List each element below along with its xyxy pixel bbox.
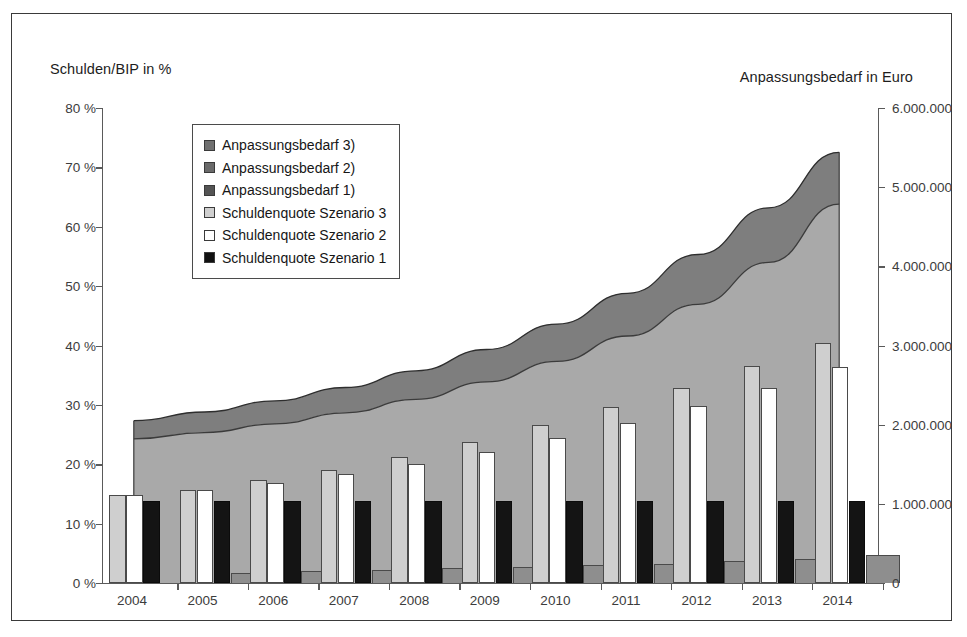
chart-page: Schulden/BIP in % Anpassungsbedarf in Eu… xyxy=(0,0,967,637)
legend-item: Anpassungsbedarf 3) xyxy=(204,134,386,157)
x-tick-label: 2011 xyxy=(611,593,640,608)
bar-szenario2 xyxy=(690,406,707,584)
left-tick-mark xyxy=(96,405,103,406)
right-tick-mark xyxy=(878,346,885,347)
left-tick-label: 60 % xyxy=(65,219,96,234)
x-tick-label: 2007 xyxy=(329,593,359,608)
left-tick-label: 80 % xyxy=(65,101,96,116)
legend-label: Schuldenquote Szenario 3 xyxy=(222,205,386,221)
left-tick-label: 10 % xyxy=(65,516,96,531)
left-tick-mark xyxy=(96,108,103,109)
right-tick-label: 4.000.000 xyxy=(892,259,952,274)
bar-szenario2 xyxy=(761,388,778,583)
bar-szenario3 xyxy=(109,495,126,583)
bar-szenario3 xyxy=(744,366,761,583)
x-tick-label: 2012 xyxy=(681,593,711,608)
bar-szenario1 xyxy=(849,501,866,584)
x-tick-mark xyxy=(318,583,319,590)
legend-item: Anpassungsbedarf 2) xyxy=(204,157,386,180)
x-tick-mark xyxy=(812,583,813,590)
left-tick-label: 20 % xyxy=(65,457,96,472)
left-tick-label: 0 % xyxy=(73,576,96,591)
left-tick-label: 40 % xyxy=(65,338,96,353)
right-tick-label: 6.000.000 xyxy=(892,101,952,116)
legend-swatch-icon xyxy=(204,207,215,218)
bar-szenario2 xyxy=(549,438,566,583)
bar-szenario1 xyxy=(637,501,654,584)
left-tick-label: 50 % xyxy=(65,279,96,294)
bar-szenario1 xyxy=(355,501,372,584)
left-tick-mark xyxy=(96,464,103,465)
right-tick-mark xyxy=(878,187,885,188)
legend-item: Schuldenquote Szenario 1 xyxy=(204,247,386,270)
x-tick-mark xyxy=(883,583,884,590)
legend-swatch-icon xyxy=(204,185,215,196)
left-tick-mark xyxy=(96,346,103,347)
legend-item: Schuldenquote Szenario 3 xyxy=(204,202,386,225)
right-tick-mark xyxy=(878,108,885,109)
left-tick-mark xyxy=(96,286,103,287)
legend-item: Anpassungsbedarf 1) xyxy=(204,179,386,202)
bar-szenario3 xyxy=(673,388,690,583)
x-tick-label: 2013 xyxy=(752,593,782,608)
x-tick-label: 2004 xyxy=(117,593,147,608)
x-tick-mark xyxy=(671,583,672,590)
x-tick-mark xyxy=(742,583,743,590)
x-tick-mark xyxy=(530,583,531,590)
bar-szenario1 xyxy=(496,501,513,584)
bar-szenario2 xyxy=(338,474,355,583)
chart-legend: Anpassungsbedarf 3)Anpassungsbedarf 2)An… xyxy=(192,124,400,279)
bar-szenario2 xyxy=(267,483,284,583)
bar-szenario1 xyxy=(425,501,442,584)
right-tick-label: 3.000.000 xyxy=(892,338,952,353)
x-tick-mark xyxy=(248,583,249,590)
bar-szenario3 xyxy=(462,442,479,583)
x-tick-label: 2009 xyxy=(470,593,500,608)
bar-szenario3 xyxy=(321,470,338,583)
chart-frame: Schulden/BIP in % Anpassungsbedarf in Eu… xyxy=(11,13,952,621)
x-tick-label: 2005 xyxy=(188,593,218,608)
legend-label: Anpassungsbedarf 2) xyxy=(222,160,355,176)
x-tick-label: 2014 xyxy=(823,593,853,608)
legend-swatch-icon xyxy=(204,140,215,151)
bar-szenario2 xyxy=(408,464,425,583)
bar-szenario2 xyxy=(620,423,637,583)
right-tick-label: 2.000.000 xyxy=(892,417,952,432)
right-axis-title: Anpassungsbedarf in Euro xyxy=(740,69,913,85)
legend-swatch-icon xyxy=(204,162,215,173)
right-tick-label: 0 xyxy=(892,576,900,591)
right-tick-mark xyxy=(878,425,885,426)
bar-szenario2 xyxy=(126,495,143,583)
legend-label: Schuldenquote Szenario 1 xyxy=(222,250,386,266)
x-tick-label: 2008 xyxy=(399,593,429,608)
right-tick-mark xyxy=(878,504,885,505)
legend-label: Anpassungsbedarf 3) xyxy=(222,137,355,153)
bar-szenario3 xyxy=(815,343,832,584)
bar-szenario3 xyxy=(250,480,267,583)
x-axis-line xyxy=(102,583,880,584)
left-tick-mark xyxy=(96,524,103,525)
x-tick-mark xyxy=(177,583,178,590)
left-tick-label: 70 % xyxy=(65,160,96,175)
legend-swatch-icon xyxy=(204,252,215,263)
x-tick-label: 2010 xyxy=(540,593,570,608)
left-tick-mark xyxy=(96,167,103,168)
left-tick-mark xyxy=(96,583,103,584)
bar-szenario1 xyxy=(284,501,301,584)
legend-label: Anpassungsbedarf 1) xyxy=(222,182,355,198)
x-tick-mark xyxy=(389,583,390,590)
bar-szenario3 xyxy=(180,490,197,583)
bar-szenario2 xyxy=(197,490,214,583)
x-tick-mark xyxy=(459,583,460,590)
left-tick-mark xyxy=(96,227,103,228)
bar-szenario2 xyxy=(479,452,496,583)
legend-swatch-icon xyxy=(204,230,215,241)
bar-szenario1 xyxy=(143,501,160,584)
bar-szenario1 xyxy=(214,501,231,584)
bar-szenario3 xyxy=(603,407,620,583)
left-axis-title: Schulden/BIP in % xyxy=(50,61,172,77)
left-tick-label: 30 % xyxy=(65,397,96,412)
right-tick-mark xyxy=(878,266,885,267)
bar-szenario1 xyxy=(707,501,724,584)
x-tick-label: 2006 xyxy=(258,593,288,608)
